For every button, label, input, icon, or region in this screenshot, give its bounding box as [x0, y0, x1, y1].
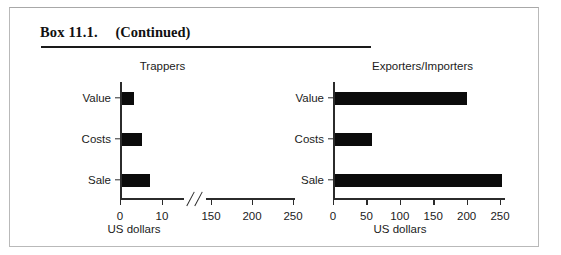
y-tick: [115, 179, 120, 180]
category-label-value: Value: [82, 92, 111, 104]
x-tick-label: 200: [242, 210, 261, 222]
x-axis-caption: US dollars: [310, 223, 490, 235]
x-tick: [366, 200, 367, 205]
x-axis-caption: US dollars: [54, 223, 214, 235]
category-label-value: Value: [295, 92, 324, 104]
y-tick: [115, 138, 120, 139]
x-tick-label: 250: [490, 210, 509, 222]
x-tick-label: 0: [117, 210, 123, 222]
x-tick: [162, 200, 163, 205]
x-tick: [211, 200, 212, 205]
box-header: Box 11.1. (Continued): [40, 24, 370, 41]
x-tick: [433, 200, 434, 205]
plot-area: Value Costs Sale 0 10 150 200 250: [120, 82, 280, 200]
x-axis: [333, 198, 505, 200]
header-divider: [41, 46, 371, 48]
bar-value: [335, 92, 467, 105]
bar-sale: [335, 174, 502, 187]
x-tick-label: 100: [390, 210, 409, 222]
bar-value: [122, 92, 134, 105]
category-label-costs: Costs: [295, 133, 324, 145]
x-tick: [333, 200, 334, 205]
x-tick-label: 200: [457, 210, 476, 222]
chart-exporters-importers: Exporters/Importers Value Costs Sale 0 5…: [300, 60, 545, 245]
box-number: Box 11.1.: [40, 24, 98, 40]
y-tick: [115, 97, 120, 98]
x-tick: [467, 200, 468, 205]
x-tick-label: 50: [360, 210, 373, 222]
box-continued-label: (Continued): [115, 24, 190, 40]
y-tick: [328, 179, 333, 180]
bar-costs: [335, 133, 372, 146]
x-tick-label: 0: [330, 210, 336, 222]
category-label-costs: Costs: [82, 133, 111, 145]
x-tick: [252, 200, 253, 205]
category-label-sale: Sale: [301, 174, 324, 186]
chart-trappers: Trappers Value Costs Sale 0 10 150: [30, 60, 295, 245]
box-panel: Box 11.1. (Continued) Trappers Value Cos…: [9, 7, 539, 247]
bar-costs: [122, 133, 142, 146]
category-label-sale: Sale: [88, 174, 111, 186]
x-tick-label: 150: [424, 210, 443, 222]
y-tick: [328, 97, 333, 98]
x-tick: [400, 200, 401, 205]
bar-sale: [122, 174, 150, 187]
x-tick: [120, 200, 121, 205]
chart-title: Exporters/Importers: [300, 60, 545, 72]
x-tick-label: 150: [201, 210, 220, 222]
y-tick: [328, 138, 333, 139]
chart-title: Trappers: [30, 60, 295, 72]
plot-area: Value Costs Sale 0 50 100 150 200 250: [333, 82, 500, 200]
axis-break-icon: [186, 191, 205, 207]
x-tick-label: 10: [156, 210, 169, 222]
x-tick: [500, 200, 501, 205]
x-axis: [120, 198, 295, 200]
x-tick: [293, 200, 294, 205]
